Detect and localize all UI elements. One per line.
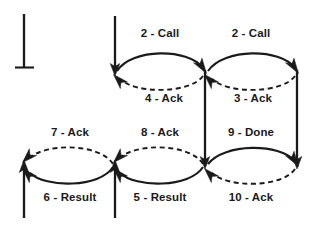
- edge-2-call-left-path: [117, 53, 203, 71]
- start-terminal: [15, 14, 34, 68]
- edge-5-result-path: [120, 167, 203, 184]
- edge-6-result: [23, 167, 114, 184]
- edge-label-3-ack: 3 - Ack: [234, 93, 272, 105]
- edge-10-ack: [205, 169, 296, 184]
- edge-2-call-left: [117, 53, 207, 73]
- edge-2-call-right: [208, 53, 299, 73]
- edge-label-8-ack: 8 - Ack: [141, 127, 179, 139]
- edge-7-ack: [23, 147, 114, 164]
- edge-label-4-ack: 4 - Ack: [145, 93, 183, 105]
- edge-3-ack: [205, 75, 296, 90]
- arrowhead-left-icon: [23, 149, 37, 163]
- arrowhead-left-icon: [205, 169, 219, 183]
- edge-label-9-done: 9 - Done: [228, 127, 274, 139]
- edge-3-ack-path: [212, 76, 295, 90]
- edge-9-done: [208, 148, 299, 167]
- edge-8-ack-path: [120, 147, 203, 164]
- edge-label-5-result: 5 - Result: [134, 192, 187, 204]
- edge-6-result-path: [30, 167, 113, 184]
- edge-4-ack-path: [120, 76, 203, 90]
- edge-5-result: [114, 167, 204, 184]
- edge-label-7-ack: 7 - Ack: [51, 127, 89, 139]
- edge-label-2-call-left: 2 - Call: [141, 28, 180, 40]
- edge-label-6-result: 6 - Result: [44, 192, 97, 204]
- edge-7-ack-path: [30, 147, 113, 164]
- edge-label-10-ack: 10 - Ack: [229, 192, 273, 204]
- arrowhead-left-icon: [114, 149, 128, 163]
- edge-label-2-call-right: 2 - Call: [232, 28, 271, 40]
- lifeline-bottom-left: [19, 160, 29, 218]
- edge-4-ack: [114, 75, 204, 90]
- diagram-canvas-container: 2 - Call 2 - Call 4 - Ack 3 - Ack 7 - Ac…: [0, 0, 321, 225]
- edge-10-ack-path: [212, 169, 295, 184]
- edge-9-done-path: [208, 148, 295, 164]
- lifeline-top-left: [110, 16, 120, 76]
- edge-2-call-right-path: [208, 53, 295, 71]
- edge-8-ack: [114, 147, 204, 164]
- lifeline-bottom-mid: [110, 160, 120, 218]
- arrowhead-left-icon: [114, 75, 128, 89]
- arrowhead-left-icon: [205, 75, 219, 89]
- lifeline-mid-vertical: [200, 70, 210, 169]
